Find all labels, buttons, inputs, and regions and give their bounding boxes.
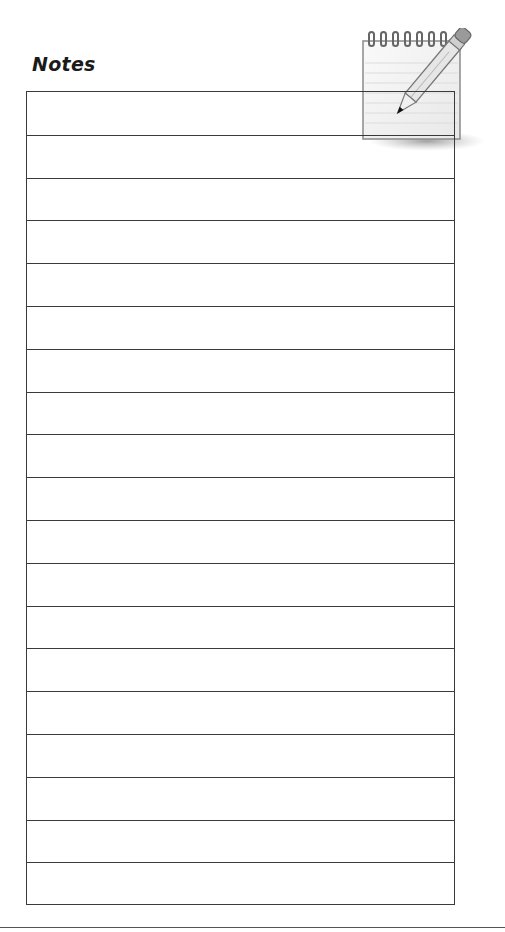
note-line: [27, 434, 454, 435]
note-line: [27, 392, 454, 393]
note-line: [27, 734, 454, 735]
note-line: [27, 563, 454, 564]
note-line: [27, 820, 454, 821]
page-title: Notes: [32, 53, 96, 75]
note-line: [27, 178, 454, 179]
note-line: [27, 777, 454, 778]
note-line: [27, 135, 454, 136]
page-bottom-rule: [0, 927, 505, 928]
note-line: [27, 306, 454, 307]
note-line: [27, 606, 454, 607]
note-line: [27, 349, 454, 350]
note-line: [27, 520, 454, 521]
note-line: [27, 477, 454, 478]
note-line: [27, 691, 454, 692]
note-line: [27, 648, 454, 649]
note-line: [27, 862, 454, 863]
notes-lined-area[interactable]: [26, 91, 455, 905]
note-line: [27, 263, 454, 264]
note-line: [27, 220, 454, 221]
